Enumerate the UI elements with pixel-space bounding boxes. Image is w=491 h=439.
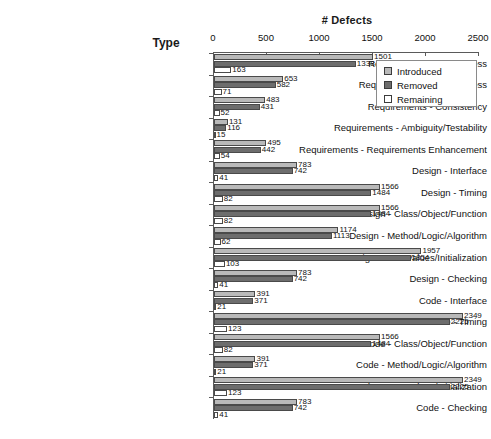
x-axis-tick — [478, 52, 479, 56]
x-axis-tick-label: 0 — [193, 32, 233, 43]
bar-value-label: 21 — [217, 368, 226, 376]
bar-removed — [214, 319, 450, 325]
x-axis-tick — [425, 52, 426, 56]
bar-remaining — [214, 89, 222, 95]
bar-introduced — [214, 97, 265, 103]
legend-swatch-introduced-icon — [384, 67, 392, 75]
bar-value-label: 442 — [262, 146, 275, 154]
bar-introduced — [214, 162, 297, 168]
bar-value-label: 41 — [219, 411, 228, 419]
bar-introduced — [214, 119, 228, 125]
bar-value-label: 41 — [219, 281, 228, 289]
legend-item-removed: Removed — [384, 78, 476, 92]
bar-value-label: 71 — [223, 88, 232, 96]
bar-value-label: 103 — [226, 260, 239, 268]
bar-introduced — [214, 399, 297, 405]
bar-value-label: 82 — [224, 217, 233, 225]
bar-introduced — [214, 270, 297, 276]
bar-introduced — [214, 248, 421, 254]
bar-value-label: 21 — [217, 303, 226, 311]
bar-removed — [214, 341, 371, 347]
bar-value-label: 123 — [228, 389, 241, 397]
bar-value-label: 431 — [261, 103, 274, 111]
bar-value-label: 116 — [227, 124, 240, 132]
bar-remaining — [214, 218, 223, 224]
bar-value-label: 1338 — [357, 60, 375, 68]
bar-remaining — [214, 369, 216, 375]
bar-value-label: 82 — [224, 195, 233, 203]
bar-introduced — [214, 313, 463, 319]
bar-value-label: 123 — [228, 325, 241, 333]
bar-remaining — [214, 282, 218, 288]
x-axis-tick-label: 2000 — [405, 32, 445, 43]
bar-value-label: 1484 — [372, 340, 390, 348]
bar-removed — [214, 255, 411, 261]
category-label: Requirements - Requirements Enhancement — [279, 144, 491, 155]
bar-introduced — [214, 205, 380, 211]
category-label: Code - Interface — [279, 295, 491, 306]
bar-remaining — [214, 326, 227, 332]
bar-value-label: 2225 — [451, 383, 469, 391]
bar-remaining — [214, 67, 231, 73]
bar-value-label: 371 — [254, 297, 267, 305]
bar-remaining — [214, 110, 220, 116]
bar-value-label: 2225 — [451, 318, 469, 326]
bar-removed — [214, 384, 450, 390]
x-axis-title: # Defects — [212, 14, 482, 26]
bar-introduced — [214, 140, 266, 146]
legend-item-remaining: Remaining — [384, 92, 476, 106]
bar-value-label: 1113 — [333, 232, 350, 240]
bar-value-label: 1484 — [372, 189, 390, 197]
bar-value-label: 82 — [224, 346, 233, 354]
bar-removed — [214, 233, 332, 239]
bar-introduced — [214, 76, 283, 82]
x-axis-tick-label: 1500 — [352, 32, 392, 43]
category-label: Code - Method/Logic/Algorithm — [279, 359, 491, 370]
x-axis-tick-label: 500 — [246, 32, 286, 43]
legend-label-removed: Removed — [397, 80, 438, 91]
bar-value-label: 742 — [294, 404, 307, 412]
bar-remaining — [214, 390, 227, 396]
category-label: Requirements - Ambiguity/Testability — [279, 122, 491, 133]
bar-value-label: 582 — [277, 81, 290, 89]
bar-value-label: 41 — [219, 174, 228, 182]
x-axis-tick-label: 1000 — [299, 32, 339, 43]
bar-remaining — [214, 153, 220, 159]
bar-introduced — [214, 54, 373, 60]
legend-swatch-remaining-icon — [384, 95, 392, 103]
bar-value-label: 15 — [217, 131, 226, 139]
bar-value-label: 54 — [221, 152, 230, 160]
legend-item-introduced: Introduced — [384, 64, 476, 78]
bar-value-label: 1854 — [412, 254, 430, 262]
bar-value-label: 742 — [294, 167, 307, 175]
bar-introduced — [214, 356, 255, 362]
bar-remaining — [214, 175, 218, 181]
bar-introduced — [214, 291, 255, 297]
chart-legend: Introduced Removed Remaining — [376, 60, 477, 107]
bar-introduced — [214, 377, 463, 383]
bar-remaining — [214, 304, 216, 310]
legend-swatch-removed-icon — [384, 81, 392, 89]
bar-value-label: 742 — [294, 275, 307, 283]
bar-removed — [214, 211, 371, 217]
bar-value-label: 62 — [222, 238, 231, 246]
bar-remaining — [214, 239, 221, 245]
bar-introduced — [214, 184, 380, 190]
bar-removed — [214, 190, 371, 196]
legend-label-introduced: Introduced — [397, 66, 442, 77]
bar-value-label: 163 — [232, 66, 245, 74]
bar-value-label: 371 — [254, 361, 267, 369]
x-axis-line — [213, 52, 479, 53]
bar-remaining — [214, 196, 223, 202]
bar-value-label: 1484 — [372, 210, 390, 218]
x-axis-tick-label: 2500 — [458, 32, 491, 43]
legend-label-remaining: Remaining — [397, 94, 442, 105]
defects-bar-chart: # Defects Type 05001000150020002500 Requ… — [0, 0, 491, 439]
bar-remaining — [214, 261, 225, 267]
bar-introduced — [214, 227, 338, 233]
bar-remaining — [214, 412, 218, 418]
bar-remaining — [214, 347, 223, 353]
bar-introduced — [214, 334, 380, 340]
